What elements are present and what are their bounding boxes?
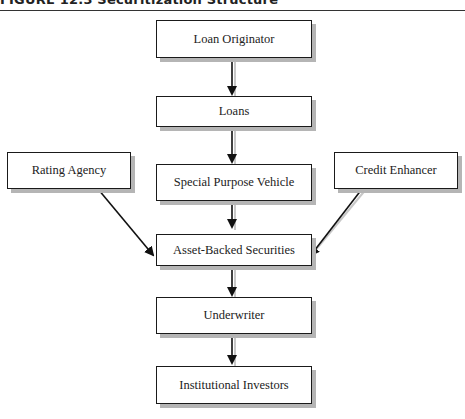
node-institutional-investors: Institutional Investors (156, 366, 312, 404)
arrow-rating-to-abs (98, 189, 153, 255)
node-special-purpose-vehicle: Special Purpose Vehicle (156, 164, 312, 201)
node-rating-agency: Rating Agency (7, 152, 131, 189)
node-label: Rating Agency (32, 163, 107, 178)
node-underwriter: Underwriter (156, 297, 312, 334)
node-label: Underwriter (203, 308, 264, 323)
node-label: Loans (219, 104, 250, 119)
node-credit-enhancer: Credit Enhancer (334, 152, 458, 189)
node-label: Credit Enhancer (355, 163, 437, 178)
node-label: Institutional Investors (179, 378, 288, 393)
arrow-enhancer-to-abs (311, 189, 362, 255)
connector-layer (0, 0, 465, 419)
node-label: Loan Originator (194, 32, 275, 47)
node-loan-originator: Loan Originator (156, 20, 312, 58)
node-loans: Loans (156, 96, 312, 127)
node-asset-backed-securities: Asset-Backed Securities (156, 234, 312, 266)
node-label: Asset-Backed Securities (173, 243, 295, 258)
node-label: Special Purpose Vehicle (174, 175, 295, 190)
